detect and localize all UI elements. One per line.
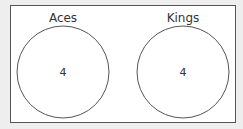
kings-label: Kings — [167, 11, 200, 25]
aces-count: 4 — [60, 66, 67, 79]
kings-count: 4 — [180, 66, 187, 79]
venn-circles — [0, 0, 243, 129]
aces-label: Aces — [49, 11, 77, 25]
